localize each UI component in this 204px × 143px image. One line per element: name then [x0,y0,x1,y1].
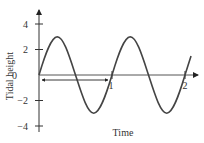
ytick-4: 4 [23,19,28,30]
tidal-chart: 4 2 0 −2 −4 1 2 Tidal height Time [0,0,204,143]
y-axis-label: Tidal height [4,52,15,100]
ytick-neg4: −4 [17,121,28,132]
x-axis-label: Time [113,127,134,138]
ytick-neg2: −2 [17,95,28,106]
ytick-2: 2 [23,44,28,55]
